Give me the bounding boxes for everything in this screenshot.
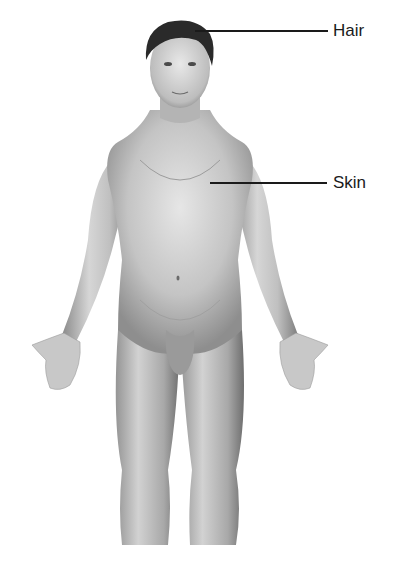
head bbox=[146, 21, 214, 124]
skin-leader-line bbox=[210, 182, 327, 184]
skin-label: Skin bbox=[333, 174, 366, 191]
hair-leader-line bbox=[195, 30, 328, 32]
torso bbox=[107, 110, 253, 375]
hair-label: Hair bbox=[333, 22, 364, 39]
human-body-illustration bbox=[0, 0, 394, 568]
